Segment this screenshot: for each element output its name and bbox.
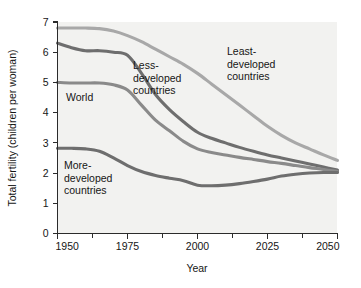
x-tick-label-2025: 2025 <box>256 240 280 252</box>
y-tick-label-1: 1 <box>43 197 49 209</box>
x-tick-label-2000: 2000 <box>186 240 210 252</box>
y-axis-ticks-group <box>53 22 58 234</box>
chart-svg: 76543210 19501975200020252050 Total fert… <box>0 0 361 288</box>
plot-area-background <box>57 22 337 233</box>
x-tick-label-1950: 1950 <box>56 240 80 252</box>
x-axis-title: Year <box>186 262 208 274</box>
y-tick-label-0: 0 <box>43 227 49 239</box>
y-axis-title: Total fertility (children per woman) <box>6 50 18 207</box>
x-tick-label-1975: 1975 <box>116 240 140 252</box>
annotation-world: World <box>66 91 93 103</box>
y-tick-label-5: 5 <box>43 76 49 88</box>
x-tick-label-2050: 2050 <box>316 240 340 252</box>
x-axis-ticks-group <box>58 234 338 239</box>
y-tick-label-6: 6 <box>43 46 49 58</box>
y-tick-label-4: 4 <box>43 106 49 118</box>
y-tick-label-3: 3 <box>43 137 49 149</box>
x-axis-tick-labels-group: 19501975200020252050 <box>56 240 340 252</box>
y-axis-tick-labels-group: 76543210 <box>43 16 49 240</box>
y-tick-label-7: 7 <box>43 16 49 28</box>
fertility-chart-figure: 76543210 19501975200020252050 Total fert… <box>0 0 361 288</box>
y-tick-label-2: 2 <box>43 167 49 179</box>
